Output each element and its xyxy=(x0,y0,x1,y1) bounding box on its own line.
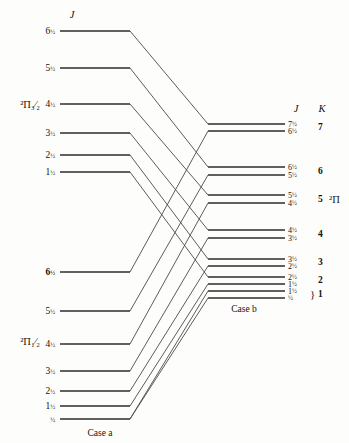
case-a-j-label: 1½ xyxy=(45,401,55,411)
case-b-term-symbol: ²Π xyxy=(329,194,340,205)
case-a-levels-group: 6½5½4½3½2½1½6½5½4½3½2½1½½ xyxy=(45,26,130,423)
case-b-k-label: 6 xyxy=(318,166,323,176)
case-b-k-label: 5 xyxy=(318,194,323,204)
right-j-header: J xyxy=(294,103,300,114)
case-a-j-label: 3½ xyxy=(45,366,55,376)
case-a-j-label: 6½ xyxy=(45,26,55,36)
case-b-k-label: 3 xyxy=(318,257,323,267)
connector-line xyxy=(130,284,208,406)
case-a-j-label: 1½ xyxy=(45,167,55,177)
case-a-term-symbol: ²Π₁⁄₂ xyxy=(20,336,40,347)
case-a-j-label: 2½ xyxy=(45,150,55,160)
case-a-j-label: 5½ xyxy=(45,306,55,316)
case-a-label: Case a xyxy=(87,428,113,438)
case-a-term-symbol: ²Π₃⁄₂ xyxy=(20,99,40,110)
case-b-j-label: ½ xyxy=(288,294,293,301)
right-k-header: K xyxy=(317,103,326,114)
connector-line xyxy=(130,291,208,419)
connector-line xyxy=(130,266,208,391)
case-b-j-label: 2½ xyxy=(288,262,297,271)
case-b-k-label: 1 xyxy=(318,289,323,299)
case-b-j-label: 6½ xyxy=(288,127,297,136)
connector-line xyxy=(130,298,208,419)
energy-level-diagram: 6½5½4½3½2½1½6½5½4½3½2½1½½ 7½6½6½5½5½4½4½… xyxy=(0,0,349,443)
k-group-brace: } xyxy=(310,288,315,300)
case-a-j-label: 2½ xyxy=(45,386,55,396)
case-a-j-label: 5½ xyxy=(45,63,55,73)
connector-line xyxy=(130,238,208,371)
case-b-label: Case b xyxy=(231,304,257,314)
case-a-j-label: 4½ xyxy=(45,99,55,109)
case-b-k-label: 7 xyxy=(318,122,323,132)
case-b-j-label: 3½ xyxy=(288,234,297,243)
connector-line xyxy=(130,131,208,272)
connector-lines-group xyxy=(130,31,208,419)
case-b-j-label: 5½ xyxy=(288,171,297,180)
left-j-header: J xyxy=(70,9,76,20)
case-b-levels-group: 7½6½6½5½5½4½4½3½3½2½2½1½1½½ xyxy=(208,120,297,302)
case-b-k-label: 4 xyxy=(318,229,323,239)
case-a-j-label: 4½ xyxy=(45,339,55,349)
connector-line xyxy=(130,31,208,124)
case-a-j-label: 6½ xyxy=(45,267,55,277)
case-b-k-label: 2 xyxy=(318,275,323,285)
level-diagram-canvas: 6½5½4½3½2½1½6½5½4½3½2½1½½ 7½6½6½5½5½4½4½… xyxy=(0,0,349,443)
case-a-j-label: ½ xyxy=(50,416,55,423)
case-b-j-label: 4½ xyxy=(288,199,297,208)
case-a-j-label: 3½ xyxy=(45,128,55,138)
